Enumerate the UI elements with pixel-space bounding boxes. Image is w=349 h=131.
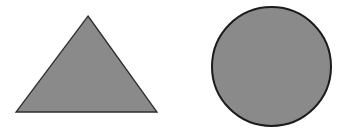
shapes-diagram [0,0,349,131]
gray-circle [212,7,331,126]
